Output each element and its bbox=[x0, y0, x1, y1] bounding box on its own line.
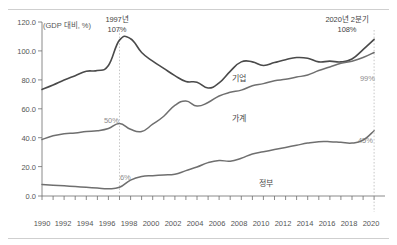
y-axis-ticks bbox=[38, 22, 42, 196]
axis-lines bbox=[42, 22, 385, 196]
series-line-household bbox=[42, 52, 374, 139]
series-lines bbox=[42, 36, 374, 189]
x-axis-ticks bbox=[42, 196, 374, 200]
series-line-corporate bbox=[42, 36, 374, 89]
chart-container: (GDP 대비, %) 120.0 100.0 80.0 60.0 40.0 2… bbox=[0, 0, 397, 245]
series-line-government bbox=[42, 131, 374, 189]
chart-plot-area bbox=[0, 0, 397, 245]
